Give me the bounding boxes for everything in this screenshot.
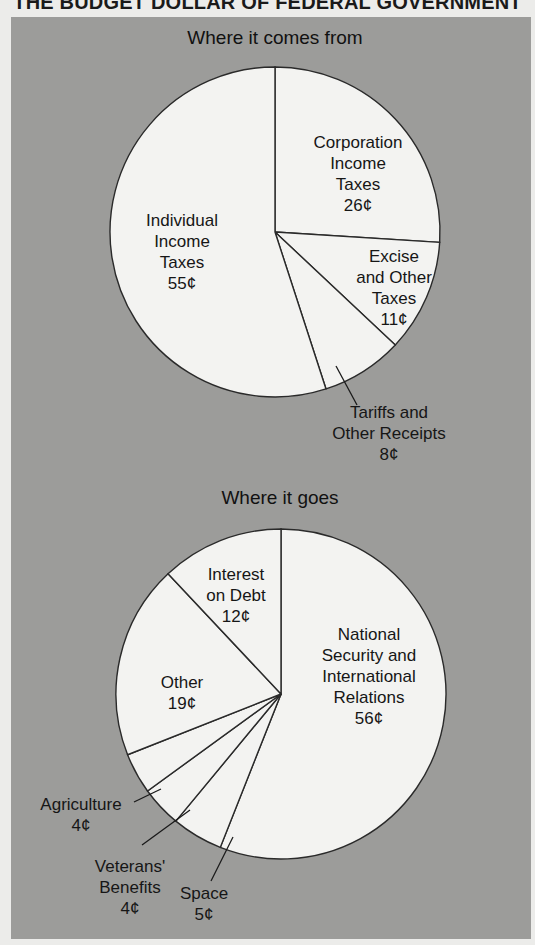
slice-label-line: Interest (208, 565, 265, 584)
slice-label-line: Relations (334, 688, 405, 707)
slice-label-agriculture: Agriculture4¢ (40, 795, 121, 835)
slice-label-line: Veterans' (95, 857, 165, 876)
slice-label-line: 11¢ (380, 310, 407, 329)
leader-line-veterans-benefits (142, 810, 190, 845)
slice-label-line: on Debt (206, 586, 266, 605)
slice-label-line: Corporation (314, 133, 403, 152)
pie-chart-income: CorporationIncomeTaxes26¢Exciseand Other… (110, 67, 446, 464)
slice-label-line: 26¢ (344, 196, 372, 215)
slice-label-line: Taxes (160, 253, 204, 272)
slice-label-line: Other (161, 673, 204, 692)
slice-label-veterans-benefits: Veterans'Benefits4¢ (95, 857, 165, 918)
slice-label-line: 4¢ (72, 816, 91, 835)
pie-chart-spending: NationalSecurity andInternationalRelatio… (40, 529, 446, 924)
slice-label-line: National (338, 625, 400, 644)
pie-1-title: Where it comes from (187, 27, 362, 48)
slice-label-tariffs-and-other-receipts: Tariffs andOther Receipts8¢ (332, 403, 445, 464)
slice-label-line: Income (330, 154, 386, 173)
slice-label-line: 19¢ (168, 694, 196, 713)
slice-label-line: Security and (322, 646, 417, 665)
pie-2-title: Where it goes (221, 487, 338, 508)
slice-label-line: 55¢ (168, 274, 196, 293)
slice-label-line: Tariffs and (350, 403, 428, 422)
slice-label-line: 8¢ (380, 445, 399, 464)
slice-label-line: International (322, 667, 416, 686)
slice-label-line: Agriculture (40, 795, 121, 814)
slice-label-line: Benefits (99, 878, 160, 897)
slice-label-line: Other Receipts (332, 424, 445, 443)
slice-label-line: Taxes (336, 175, 380, 194)
slice-label-line: 4¢ (121, 899, 140, 918)
slice-label-line: 5¢ (195, 905, 214, 924)
slice-label-line: Excise (369, 247, 419, 266)
slice-label-line: Taxes (372, 289, 416, 308)
slice-label-line: Income (154, 232, 210, 251)
slice-label-space: Space5¢ (180, 884, 228, 924)
slice-label-line: 12¢ (222, 607, 250, 626)
slice-label-line: 56¢ (355, 709, 383, 728)
slice-label-line: and Other (356, 268, 432, 287)
slice-label-line: Individual (146, 211, 218, 230)
pie-charts: Where it comes from CorporationIncomeTax… (0, 0, 535, 945)
slice-label-line: Space (180, 884, 228, 903)
